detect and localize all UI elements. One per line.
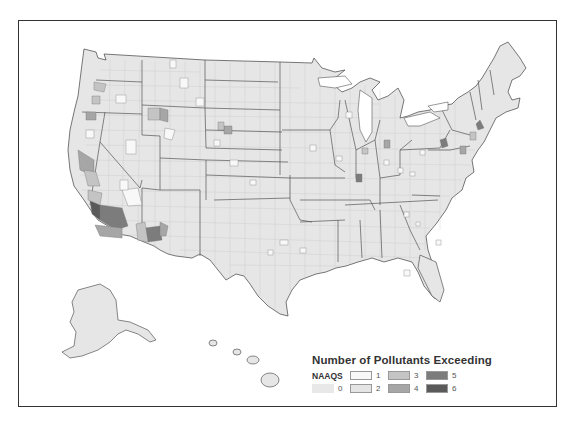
hawaii (209, 340, 279, 387)
legend-swatch-3 (388, 371, 410, 380)
legend-label-5: 5 (452, 371, 456, 380)
contiguous-us (68, 42, 526, 316)
legend-label-0: 0 (338, 384, 342, 393)
legend-label-6: 6 (452, 384, 456, 393)
legend-swatch-2 (350, 384, 372, 393)
legend-swatch-0 (312, 384, 334, 393)
legend-label-3: 3 (414, 371, 418, 380)
legend-subtitle: NAAQS (312, 371, 343, 381)
legend-swatch-4 (388, 384, 410, 393)
legend-swatch-1 (350, 371, 372, 380)
legend-label-4: 4 (414, 384, 418, 393)
alaska (62, 284, 156, 358)
legend-label-1: 1 (376, 371, 380, 380)
legend-grid: NAAQS 0 1 2 3 4 5 6 (312, 371, 552, 397)
legend-title: Number of Pollutants Exceeding (312, 354, 552, 366)
legend-swatch-6 (426, 384, 448, 393)
legend-label-2: 2 (376, 384, 380, 393)
legend: Number of Pollutants Exceeding NAAQS 0 1… (312, 354, 552, 397)
legend-swatch-5 (426, 371, 448, 380)
